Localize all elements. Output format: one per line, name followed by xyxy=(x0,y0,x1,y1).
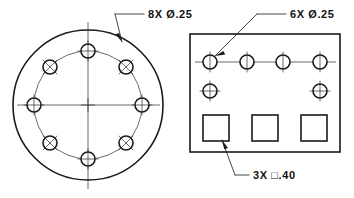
center-mark xyxy=(81,98,95,112)
hole-upper-left xyxy=(43,60,57,74)
hole-right xyxy=(132,95,152,115)
hole-bottom xyxy=(78,149,98,169)
hole-upper-right xyxy=(119,60,133,74)
engineering-drawing-sheet: 8X Ø.25 xyxy=(0,0,354,198)
hole-top xyxy=(78,41,98,61)
note-8x-hole: 8X Ø.25 xyxy=(148,8,193,20)
square-slot-3 xyxy=(301,115,327,141)
rectangular-plate-view xyxy=(190,34,340,152)
hole-lower-left xyxy=(43,136,57,150)
square-slot-1 xyxy=(203,115,229,141)
circular-flange-view xyxy=(13,22,163,189)
square-slot-2 xyxy=(252,115,278,141)
leader-8x-hole-note xyxy=(115,14,144,42)
hole-left xyxy=(24,95,44,115)
note-3x-square: 3X □.40 xyxy=(253,169,296,181)
note-6x-hole: 6X Ø.25 xyxy=(290,8,335,20)
hole-lower-right xyxy=(119,136,133,150)
